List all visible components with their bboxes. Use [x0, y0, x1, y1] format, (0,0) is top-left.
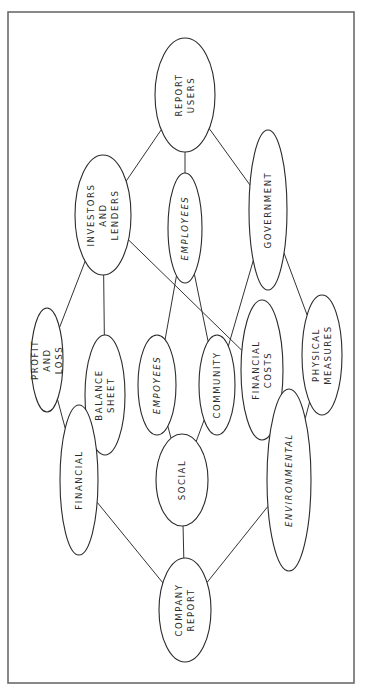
node-label: EMPLOYEES	[180, 196, 190, 261]
edge-community-to-social	[196, 420, 204, 442]
node-label: MEASURES	[323, 325, 333, 385]
node-label: LENDERS	[110, 190, 120, 241]
node-label: ENVIRONMENTAL	[284, 433, 294, 527]
hierarchy-diagram: REPORTUSERSINVESTORSANDLENDERSEMPLOYEESG…	[0, 0, 368, 692]
edge-employees-top-to-community	[194, 274, 208, 342]
edge-government-to-physical-measures	[284, 253, 307, 315]
node-physical-measures: PHYSICALMEASURES	[302, 295, 342, 415]
node-label: COMPANY	[174, 583, 184, 636]
node-profit-loss: PROFITANDLOSS	[30, 308, 64, 412]
node-government: GOVERNMENT	[249, 130, 287, 290]
nodes-layer: REPORTUSERSINVESTORSANDLENDERSEMPLOYEESG…	[30, 38, 343, 662]
node-label: FINANCIAL	[74, 450, 84, 509]
edge-employees-top-to-employees-social	[165, 276, 176, 340]
node-company-report: COMPANYREPORT	[159, 558, 211, 662]
edge-report-users-to-government	[209, 129, 250, 185]
node-label: COMMUNITY	[212, 351, 222, 418]
edge-employees-social-to-social	[168, 426, 171, 438]
node-label: USERS	[186, 77, 196, 113]
edge-investors-lenders-to-profit-loss	[60, 261, 86, 327]
node-label: REPORT	[174, 73, 184, 116]
edge-profit-loss-to-financial	[57, 399, 65, 428]
node-environmental: ENVIRONMENTAL	[267, 389, 311, 571]
node-label: GOVERNMENT	[263, 172, 273, 249]
node-label: SHEET	[106, 377, 116, 413]
edge-investors-lenders-to-balance-sheet	[104, 275, 105, 335]
node-report-users: REPORTUSERS	[155, 38, 215, 152]
node-label: INVESTORS	[86, 183, 96, 246]
node-label: LOSS	[54, 346, 64, 374]
node-label: FINANCIAL	[251, 340, 261, 399]
node-community: COMMUNITY	[199, 335, 235, 435]
node-label: AND	[42, 348, 52, 372]
node-employees-social: EMPOYEES	[138, 335, 176, 435]
node-label: PHYSICAL	[311, 328, 321, 382]
node-label: SOCIAL	[177, 460, 187, 501]
node-financial: FINANCIAL	[60, 405, 98, 555]
node-label: REPORT	[186, 588, 196, 631]
edge-environmental-to-company-report	[207, 506, 268, 582]
node-social: SOCIAL	[156, 434, 208, 526]
node-label: PROFIT	[30, 340, 40, 380]
node-employees-top: EMPLOYEES	[168, 173, 202, 283]
node-label: BALANCE	[94, 369, 104, 420]
node-label: COSTS	[263, 352, 273, 389]
edge-social-to-company-report	[183, 526, 184, 558]
edge-report-users-to-investors-lenders	[126, 130, 161, 181]
node-label: EMPOYEES	[152, 356, 162, 415]
node-investors-lenders: INVESTORSANDLENDERS	[75, 155, 131, 275]
edge-financial-to-company-report	[97, 502, 163, 583]
node-label: AND	[98, 203, 108, 227]
edge-physical-measures-to-environmental	[305, 402, 309, 419]
